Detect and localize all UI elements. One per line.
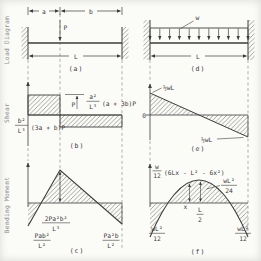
figure-svg: Load Diagram Shear Bending Moment a b P … <box>0 0 261 261</box>
max-shear-bottom-label: ½wL <box>201 136 213 143</box>
half-span-den: 2 <box>198 216 202 223</box>
zero-label: 0 <box>142 112 146 119</box>
jump-label: P <box>72 101 76 108</box>
right-reaction-den: L³ <box>89 103 97 110</box>
moment-area <box>28 170 122 226</box>
wall-hatch-left <box>22 27 29 59</box>
load-diagram-left <box>22 7 129 60</box>
load-diagram-left-labels: a b P L (a) <box>42 8 93 73</box>
right-end-moment-num: Pa²b <box>103 232 118 239</box>
shear-neg-block <box>60 115 122 127</box>
right-end-moment-den: L² <box>107 242 115 249</box>
peak-moment-num: wL² <box>223 177 234 184</box>
right-end-moment-den: 12 <box>239 235 247 242</box>
w-leader <box>181 21 194 29</box>
caption-e: (e) <box>191 145 206 153</box>
moment-equation-num: w <box>155 163 159 170</box>
left-end-moment-den: L² <box>38 242 46 249</box>
x-label: x <box>184 203 188 210</box>
dim-a-label: a <box>42 8 46 15</box>
peak-moment-den: L³ <box>52 225 60 232</box>
right-reaction-num: a² <box>89 93 97 100</box>
beam-formula-figure: Load Diagram Shear Bending Moment a b P … <box>0 0 261 261</box>
left-reaction-num: b² <box>18 117 26 124</box>
length-label: L <box>196 53 200 60</box>
bottom-leader <box>217 138 244 140</box>
point-load-label: P <box>64 24 68 31</box>
caption-d: (d) <box>191 65 206 73</box>
moment-diagram-left <box>28 163 122 240</box>
peak-moment-num: 2Pa²b² <box>45 215 68 222</box>
row-label-load: Load Diagram <box>3 16 11 64</box>
left-end-moment-num: Pab² <box>34 232 49 239</box>
half-span-num: L <box>198 206 202 213</box>
moment-equation-den: 12 <box>153 172 161 179</box>
shear-pos-block <box>28 95 60 115</box>
right-reaction-factor: (a + 3b)P <box>102 100 136 107</box>
caption-c: (c) <box>70 247 85 255</box>
udl-intensity-label: w <box>196 14 200 21</box>
row-label-moment: Bending Moment <box>3 177 11 233</box>
left-reaction-den: L³ <box>18 127 26 134</box>
moment-equation-rest: (6Lx - L² - 6x²) <box>164 169 225 176</box>
dim-b-label: b <box>89 8 93 15</box>
wall-hatch-left <box>144 20 151 60</box>
left-reaction-factor: (3a + b)P <box>31 124 65 131</box>
row-label-shear: Shear <box>3 103 10 123</box>
row-labels: Load Diagram Shear Bending Moment <box>3 16 11 233</box>
shear-diagram-left <box>15 82 122 146</box>
top-leader <box>153 88 162 93</box>
shear-diagram-right <box>146 84 248 140</box>
left-end-moment-den: 12 <box>153 235 161 242</box>
right-end-moment-num: wL² <box>237 225 248 232</box>
caption-a: (a) <box>69 65 84 73</box>
wall-hatch-right <box>248 20 255 60</box>
length-label: L <box>74 53 78 60</box>
max-shear-top-label: ½wL <box>163 84 175 91</box>
moment-diagram-left-labels: 2Pa²b² L³ Pab² L² Pa²b L² (c) <box>34 215 118 255</box>
caption-b: (b) <box>70 142 85 150</box>
wall-hatch-right <box>122 27 129 59</box>
peak-moment-den: 24 <box>225 187 233 194</box>
left-end-moment-num: wL² <box>151 225 162 232</box>
caption-f: (f) <box>191 248 206 256</box>
